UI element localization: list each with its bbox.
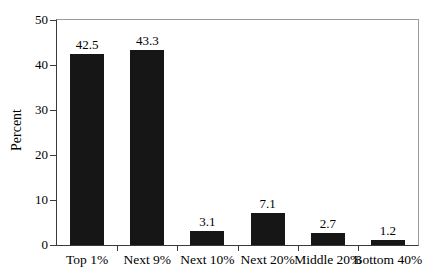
bar-value-label: 1.2 (358, 223, 418, 238)
y-axis-tick-label: 40 (18, 57, 48, 73)
y-axis-tick (50, 65, 56, 66)
y-axis-tick-label: 10 (18, 192, 48, 208)
y-axis-tick-label: 20 (18, 147, 48, 163)
bar (371, 240, 405, 245)
x-axis-tick (177, 246, 178, 251)
bar-value-label: 42.5 (57, 37, 117, 52)
bar (130, 50, 164, 245)
bar (190, 231, 224, 245)
x-axis-tick (117, 246, 118, 251)
bar-value-label: 2.7 (298, 216, 358, 231)
bar (311, 233, 345, 245)
y-axis-tick-label: 50 (18, 12, 48, 28)
y-axis-tick-label: 0 (18, 237, 48, 253)
bar (251, 213, 285, 245)
x-axis-tick (238, 246, 239, 251)
y-axis-tick (50, 20, 56, 21)
y-axis-tick (50, 155, 56, 156)
bar-value-label: 3.1 (177, 214, 237, 229)
plot-area (56, 19, 419, 246)
bar-value-label: 7.1 (238, 196, 298, 211)
y-axis-tick (50, 245, 56, 246)
bar-chart-figure: Percent 0102030405042.5Top 1%43.3Next 9%… (0, 0, 436, 280)
y-axis-tick (50, 200, 56, 201)
y-axis-tick-label: 30 (18, 102, 48, 118)
x-axis-tick (358, 246, 359, 251)
bar (70, 54, 104, 245)
y-axis-tick (50, 110, 56, 111)
x-axis-tick (298, 246, 299, 251)
bar-value-label: 43.3 (117, 33, 177, 48)
x-axis-category-label: Bottom 40% (348, 252, 428, 267)
